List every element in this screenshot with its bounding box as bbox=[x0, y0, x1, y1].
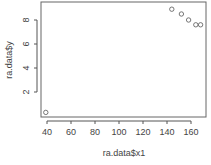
x-tick-label: 40 bbox=[42, 127, 52, 137]
x-tick-label: 120 bbox=[135, 127, 150, 137]
data-point bbox=[186, 18, 190, 22]
x-axis-title: ra.data$x1 bbox=[103, 148, 146, 158]
data-point bbox=[198, 23, 202, 27]
y-axis: 2468 bbox=[21, 17, 37, 94]
y-tick-label: 2 bbox=[21, 89, 31, 94]
y-tick-label: 4 bbox=[21, 65, 31, 70]
data-point bbox=[179, 12, 183, 16]
x-tick-label: 160 bbox=[183, 127, 198, 137]
x-tick-label: 60 bbox=[66, 127, 76, 137]
data-point bbox=[44, 110, 48, 114]
x-axis: 406080100120140160 bbox=[42, 121, 199, 137]
x-tick-label: 80 bbox=[90, 127, 100, 137]
data-points bbox=[44, 7, 203, 115]
data-point bbox=[170, 7, 174, 11]
data-point bbox=[194, 23, 198, 27]
y-tick-label: 6 bbox=[21, 41, 31, 46]
x-tick-label: 140 bbox=[159, 127, 174, 137]
plot-box bbox=[41, 2, 206, 117]
y-axis-title: ra.data$y bbox=[4, 41, 14, 79]
x-tick-label: 100 bbox=[111, 127, 126, 137]
y-tick-label: 8 bbox=[21, 17, 31, 22]
scatter-plot: 406080100120140160 2468 ra.data$x1 ra.da… bbox=[0, 0, 211, 165]
